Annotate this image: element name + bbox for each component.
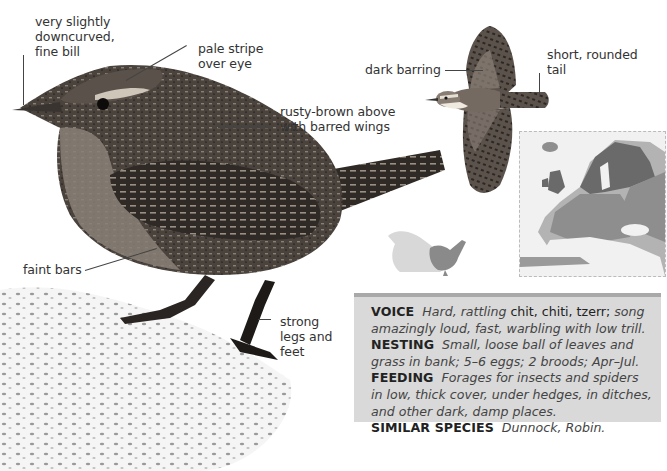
europe-map (520, 132, 665, 276)
similar-species-text: Dunnock, Robin. (502, 420, 606, 435)
voice-text-italic-1: Hard, rattling (422, 304, 506, 319)
nesting-heading: NESTING (371, 337, 434, 352)
similar-species-heading: SIMILAR SPECIES (371, 420, 494, 435)
callout-tail: short, rounded tail (547, 47, 638, 77)
upperparts-leader-line (218, 127, 270, 128)
voice-section: VOICE Hard, rattling chit, chiti, tzerr;… (371, 304, 653, 337)
bill-leader-line (23, 55, 24, 105)
range-map (519, 131, 666, 277)
feeding-heading: FEEDING (371, 370, 434, 385)
nesting-section: NESTING Small, loose ball of leaves and … (371, 337, 653, 370)
legs-leader-line (258, 319, 271, 320)
voice-heading: VOICE (371, 304, 414, 319)
callout-legs: strong legs and feet (280, 314, 332, 359)
callout-bill: very slightly downcurved, fine bill (35, 14, 115, 59)
flight-barring-leader-line (445, 70, 483, 71)
callout-flight-barring: dark barring (365, 62, 441, 77)
callout-flanks: faint bars (23, 262, 82, 277)
callout-eye-stripe: pale stripe over eye (198, 41, 263, 71)
species-info-box: VOICE Hard, rattling chit, chiti, tzerr;… (354, 293, 661, 422)
callout-upperparts: rusty-brown above with barred wings (280, 104, 395, 134)
tail-leader-line (539, 73, 540, 97)
similar-species-section: SIMILAR SPECIES Dunnock, Robin. (371, 420, 653, 437)
voice-call-notes: chit, chiti, tzerr; (506, 304, 610, 319)
feeding-section: FEEDING Forages for insects and spiders … (371, 370, 653, 420)
